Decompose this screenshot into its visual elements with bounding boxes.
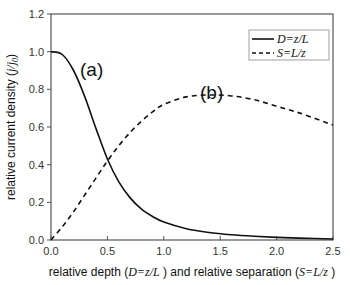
x-axis-title: relative depth (D=z/L ) and relative sep… bbox=[49, 265, 335, 279]
y-axis-title: relative current density (j/j0) bbox=[4, 54, 20, 200]
line-chart: 0.00.51.01.52.02.5 0.00.20.40.60.81.01.2… bbox=[0, 0, 350, 285]
y-tick-label: 0.0 bbox=[29, 234, 44, 246]
x-tick-label: 1.5 bbox=[213, 245, 228, 257]
x-axis-ticks: 0.00.51.01.52.02.5 bbox=[43, 236, 340, 257]
y-tick-label: 0.2 bbox=[29, 196, 44, 208]
x-tick-label: 0.0 bbox=[43, 245, 58, 257]
annotation-b: (b) bbox=[200, 82, 223, 103]
x-tick-label: 2.0 bbox=[269, 245, 284, 257]
y-tick-label: 1.0 bbox=[29, 46, 44, 58]
legend-label-d: D=z/L bbox=[276, 32, 309, 46]
x-tick-label: 0.5 bbox=[100, 245, 115, 257]
y-tick-label: 1.2 bbox=[29, 8, 44, 20]
series-line-separation bbox=[51, 95, 333, 240]
annotation-a: (a) bbox=[80, 59, 103, 80]
legend: D=z/L S=L/z bbox=[249, 30, 329, 60]
y-tick-label: 0.4 bbox=[29, 159, 44, 171]
y-tick-label: 0.6 bbox=[29, 121, 44, 133]
legend-label-s: S=L/z bbox=[277, 46, 306, 60]
x-tick-label: 1.0 bbox=[156, 245, 171, 257]
x-tick-label: 2.5 bbox=[325, 245, 340, 257]
y-tick-label: 0.8 bbox=[29, 83, 44, 95]
y-axis-ticks: 0.00.20.40.60.81.01.2 bbox=[29, 8, 51, 246]
